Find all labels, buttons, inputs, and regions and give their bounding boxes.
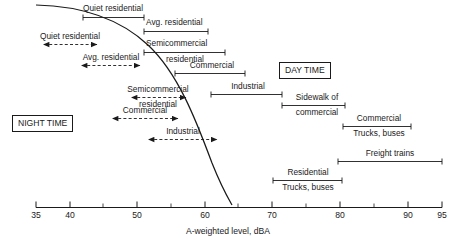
bar-day-freight-trains — [338, 159, 442, 165]
day-range-bars — [83, 15, 442, 184]
bar-day-industrial — [211, 92, 282, 98]
label-day-avg-residential: Avg. residential — [146, 18, 203, 27]
label-day-freight-trains: Freight trains — [366, 149, 414, 158]
bar-day-commercial — [175, 71, 245, 77]
label-day-residential-trucks-line1: Residential — [287, 168, 328, 177]
xtick-label-95: 95 — [437, 210, 447, 220]
xtick-label-50: 50 — [132, 210, 142, 220]
label-night-semicommercial: Semicommercial — [127, 85, 188, 94]
xtick-label-35: 35 — [31, 210, 41, 220]
bar-day-quiet-residential — [83, 15, 144, 21]
label-day-commercial-trucks-line2: Trucks, buses — [353, 129, 404, 138]
label-day-sidewalk-line2: commercial — [296, 108, 338, 117]
night-time-box: NIGHT TIME — [12, 115, 73, 132]
label-night-avg-residential: Avg. residential — [83, 53, 140, 62]
label-day-quiet-residential: Quiet residential — [83, 4, 143, 13]
xtick-label-70: 70 — [267, 210, 277, 220]
xtick-label-60: 60 — [200, 210, 210, 220]
label-day-industrial: Industrial — [231, 82, 265, 91]
label-night-quiet-residential: Quiet residential — [40, 32, 100, 41]
label-day-residential-trucks-line2: Trucks, buses — [282, 183, 333, 192]
x-axis — [36, 202, 442, 208]
label-day-sidewalk-line1: Sidewalk of — [296, 93, 338, 102]
x-axis-title: A-weighted level, dBA — [186, 226, 270, 236]
bar-day-avg-residential — [144, 29, 208, 35]
xtick-label-40: 40 — [65, 210, 75, 220]
noise-level-chart: Quiet residential Avg. residential Semic… — [0, 0, 459, 242]
xtick-label-80: 80 — [335, 210, 345, 220]
label-day-commercial: Commercial — [190, 61, 234, 70]
label-night-industrial: Industrial — [166, 127, 200, 136]
xtick-label-90: 90 — [403, 210, 413, 220]
label-night-commercial: Commercial — [123, 106, 167, 115]
label-day-commercial-trucks-line1: Commercial — [357, 114, 401, 123]
label-day-semicommercial: Semicommercial — [146, 39, 207, 48]
day-time-box: DAY TIME — [279, 62, 331, 79]
